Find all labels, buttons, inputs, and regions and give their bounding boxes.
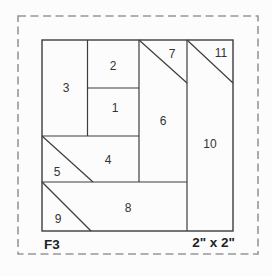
- piece-number-9: 9: [55, 212, 62, 226]
- piece-number-6: 6: [160, 114, 167, 128]
- piece-number-8: 8: [125, 201, 132, 215]
- quilt-pattern-card: 1 2 3 4 5 6 7 8 9 10 11 F3 2" x 2": [0, 0, 272, 276]
- piece-number-4: 4: [105, 153, 112, 167]
- piece-number-11: 11: [215, 46, 228, 60]
- piece-number-7: 7: [169, 47, 176, 61]
- seam-lines: [42, 40, 233, 231]
- seam-diagonal-piece5: [42, 136, 93, 182]
- pattern-id-label: F3: [44, 237, 60, 252]
- pattern-size-label: 2" x 2": [192, 235, 235, 250]
- piece-number-3: 3: [63, 81, 70, 95]
- seam-diagonal-piece9: [42, 182, 91, 231]
- piece-number-2: 2: [110, 59, 117, 73]
- quilt-block-diagram: 1 2 3 4 5 6 7 8 9 10 11 F3 2" x 2": [0, 0, 272, 276]
- piece-number-10: 10: [203, 137, 217, 151]
- seam-diagonal-piece7: [139, 40, 187, 83]
- piece-number-1: 1: [112, 101, 119, 115]
- piece-number-5: 5: [54, 165, 61, 179]
